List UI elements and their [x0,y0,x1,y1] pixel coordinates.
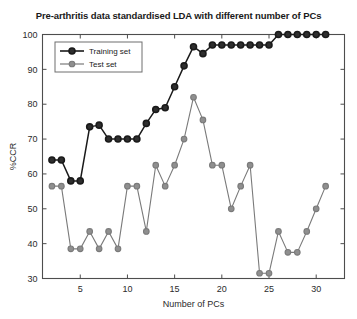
data-point [49,183,55,189]
y-tick-label: 100 [22,30,37,40]
y-tick-label: 40 [27,239,37,249]
x-tick-label: 25 [264,284,274,294]
data-point [266,42,272,48]
data-point [238,183,244,189]
plot-area: 30405060708090100 51015202530 %CCR Numbe… [0,0,357,319]
data-point [68,178,74,184]
data-point [77,246,83,252]
data-point [125,183,131,189]
data-point [87,124,93,130]
data-point [162,183,168,189]
x-tick-label: 5 [78,284,83,294]
data-point [77,178,83,184]
data-point [285,32,291,38]
legend-label: Test set [89,60,117,69]
data-point [49,157,55,163]
data-point [96,246,102,252]
data-point [106,229,112,235]
y-tick-label: 50 [27,204,37,214]
data-point [266,270,272,276]
y-tick-label: 60 [27,169,37,179]
x-axis-label: Number of PCs [163,299,225,309]
data-point [257,42,263,48]
data-point [323,32,329,38]
data-point [313,206,319,212]
data-point [323,183,329,189]
data-point [68,246,74,252]
chart-figure: Pre-arthritis data standardised LDA with… [0,0,357,319]
x-tick-label: 20 [217,284,227,294]
data-point [87,229,93,235]
data-point [276,229,282,235]
data-point [115,136,121,142]
data-point [191,44,197,50]
data-point [106,136,112,142]
data-point [219,42,225,48]
data-point [257,270,263,276]
data-point [304,229,310,235]
data-point [247,42,253,48]
data-point [228,206,234,212]
y-tick-labels: 30405060708090100 [22,30,37,284]
data-point [144,229,150,235]
x-tick-label: 15 [170,284,180,294]
data-point [59,183,65,189]
y-tick-label: 90 [27,65,37,75]
y-tick-label: 70 [27,134,37,144]
data-point [153,106,159,112]
x-tick-label: 30 [311,284,321,294]
data-point [275,32,281,38]
data-point [181,136,187,142]
data-point [134,183,140,189]
legend-marker [69,48,75,54]
data-point [313,32,319,38]
data-point [124,136,130,142]
series-test-set [49,94,328,276]
y-tick-label: 30 [27,274,37,284]
data-point [228,42,234,48]
data-point [219,162,225,168]
data-point [209,42,215,48]
data-point [58,157,64,163]
data-point [115,246,121,252]
data-point [96,122,102,128]
data-point [304,32,310,38]
data-point [181,63,187,69]
data-point [200,117,206,123]
data-point [294,32,300,38]
data-point [153,162,159,168]
data-point [143,120,149,126]
data-point [172,162,178,168]
y-axis-label: %CCR [8,142,18,170]
data-point [162,105,168,111]
data-point [247,162,253,168]
data-point [200,51,206,57]
data-point [295,250,301,256]
x-tick-labels: 51015202530 [78,284,321,294]
data-point [238,42,244,48]
legend: Training setTest set [55,42,142,72]
data-point [210,162,216,168]
legend-label: Training set [89,47,131,56]
data-point [191,94,197,100]
data-point [172,84,178,90]
y-tick-label: 80 [27,99,37,109]
data-point [134,136,140,142]
data-point [285,250,291,256]
legend-marker [69,61,75,67]
x-tick-label: 10 [122,284,132,294]
